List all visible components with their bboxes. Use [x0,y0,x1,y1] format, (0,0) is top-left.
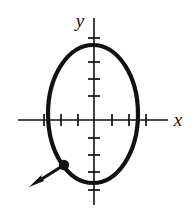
marked-point [59,160,69,170]
y-axis-label: y [74,10,85,31]
x-axis-label: x [173,109,183,130]
ellipse-tangent-figure: y x [0,0,194,214]
figure-canvas: y x [0,0,194,214]
tangent-arrow-head [29,173,44,188]
